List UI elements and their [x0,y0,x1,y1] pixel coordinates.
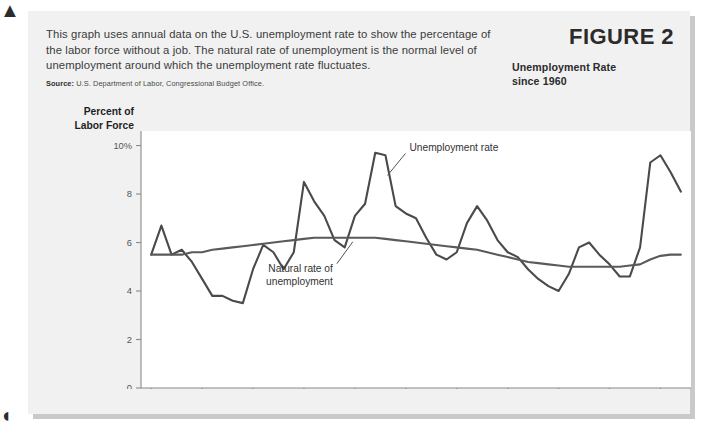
source-text: U.S. Department of Labor, Congressional … [76,79,264,88]
figure-source: Source: U.S. Department of Labor, Congre… [46,79,516,89]
unemployment-line-chart: 0246810%19601965197019751980198519901995… [113,120,691,389]
y-axis-tick-label: 2 [127,335,132,345]
figure-subtitle: Unemployment Rate since 1960 [512,61,682,88]
figure-subtitle-line2: since 1960 [512,75,682,89]
annotation-natural-rate-line2: unemployment [266,276,333,287]
figure-number: FIGURE 2 [569,25,674,49]
plot-background [141,131,691,388]
annotation-unemployment-rate: Unemployment rate [409,142,498,153]
y-axis-tick-label: 8 [127,189,132,199]
corner-mark-top-icon: ▲ [0,0,16,22]
y-axis-title-line1: Percent of [46,105,134,119]
figure-screenshot: ▲ ◖ This graph uses annual data on the U… [0,0,715,448]
y-axis-tick-label: 10% [113,141,132,151]
y-axis-tick-label: 0 [127,383,132,389]
y-axis-tick-label: 6 [127,238,132,248]
chart-plot-area: 0246810%19601965197019751980198519901995… [113,120,691,389]
y-axis-tick-label: 4 [127,286,132,296]
source-label: Source: [46,79,74,88]
annotation-natural-rate-line1: Natural rate of [268,263,333,274]
figure-subtitle-line1: Unemployment Rate [512,61,682,75]
corner-mark-bottom-icon: ◖ [0,405,16,427]
figure-caption: This graph uses annual data on the U.S. … [46,27,506,74]
figure-panel: This graph uses annual data on the U.S. … [28,11,690,414]
